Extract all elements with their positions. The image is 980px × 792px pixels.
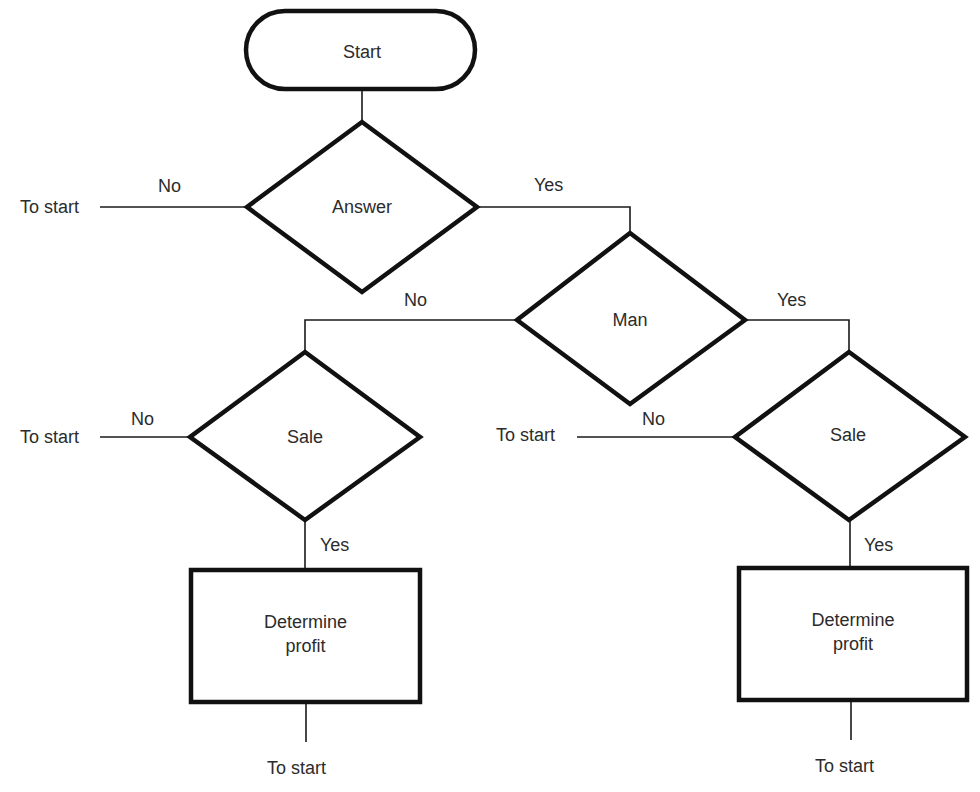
answer-no-label: No	[158, 176, 181, 196]
sale-left-yes-label: Yes	[320, 535, 349, 555]
profit-right-label: Determine profit	[739, 608, 967, 656]
profit-left-line1: Determine	[191, 610, 420, 634]
sale-right-to-start-label: To start	[496, 425, 555, 445]
man-yes-label: Yes	[777, 290, 806, 310]
sale-left-label: Sale	[243, 425, 367, 449]
profit-left-to-start-label: To start	[267, 758, 326, 778]
profit-right-line1: Determine	[739, 608, 967, 632]
start-label: Start	[300, 40, 424, 64]
sale-left-no-label: No	[131, 409, 154, 429]
profit-left-label: Determine profit	[191, 610, 420, 658]
edge-man-no	[305, 320, 517, 352]
sale-left-to-start-label: To start	[20, 427, 79, 447]
profit-right-line2: profit	[739, 632, 967, 656]
man-label: Man	[568, 308, 692, 332]
sale-right-no-label: No	[642, 409, 665, 429]
flowchart-canvas	[0, 0, 980, 792]
answer-yes-label: Yes	[534, 175, 563, 195]
answer-to-start-label: To start	[20, 197, 79, 217]
edge-man-yes	[745, 320, 849, 352]
sale-right-label: Sale	[786, 423, 910, 447]
profit-right-to-start-label: To start	[815, 756, 874, 776]
edge-answer-yes	[477, 207, 630, 233]
answer-label: Answer	[300, 195, 424, 219]
profit-left-line2: profit	[191, 634, 420, 658]
man-no-label: No	[404, 290, 427, 310]
sale-right-yes-label: Yes	[864, 535, 893, 555]
